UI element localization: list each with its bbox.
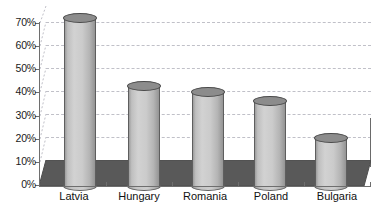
bar-body: [192, 92, 224, 186]
x-tick-1: [172, 182, 173, 187]
bar-chart: 70% 60% 50% 40% 30% 20% 10% 0% Latvia Hu…: [0, 0, 377, 208]
x-tick-2: [238, 182, 239, 187]
y-axis-label-70: 70%: [16, 17, 36, 28]
x-axis-label-romania: Romania: [173, 190, 237, 202]
bar-poland[interactable]: [254, 96, 286, 186]
bar-top-cap: [127, 81, 161, 91]
bar-top-cap: [314, 133, 348, 143]
bar-top-cap: [253, 96, 287, 106]
y-axis-label-60: 60%: [16, 40, 36, 51]
bar-body: [315, 138, 347, 186]
bar-body: [128, 86, 160, 186]
x-axis-label-hungary: Hungary: [107, 190, 171, 202]
y-axis-label-20: 20%: [16, 133, 36, 144]
bar-hungary[interactable]: [128, 81, 160, 186]
bar-latvia[interactable]: [64, 13, 96, 186]
x-axis-label-bulgaria: Bulgaria: [305, 190, 369, 202]
x-axis-label-latvia: Latvia: [42, 190, 106, 202]
y-axis-label-0: 0%: [21, 179, 36, 190]
bar-body: [254, 101, 286, 186]
y-axis-label-40: 40%: [16, 86, 36, 97]
x-axis-label-poland: Poland: [239, 190, 303, 202]
x-tick-0: [106, 182, 107, 187]
bar-bulgaria[interactable]: [315, 133, 347, 186]
bar-top-cap: [191, 87, 225, 97]
x-axis-line: [39, 186, 371, 187]
y-axis-label-30: 30%: [16, 110, 36, 121]
y-axis-label-10: 10%: [16, 156, 36, 167]
x-tick-4: [370, 182, 371, 187]
bar-top-cap: [63, 13, 97, 23]
bar-body: [64, 18, 96, 186]
bar-romania[interactable]: [192, 87, 224, 186]
y-axis-label-50: 50%: [16, 63, 36, 74]
x-tick-3: [304, 182, 305, 187]
